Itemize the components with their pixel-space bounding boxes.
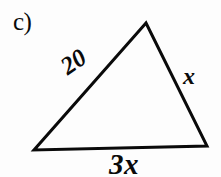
triangle-outline — [34, 23, 207, 150]
part-label: c) — [13, 9, 31, 34]
side-label-right: x — [183, 64, 195, 88]
triangle-figure: c) 20 x 3x — [0, 0, 221, 177]
side-label-base: 3x — [109, 150, 139, 177]
